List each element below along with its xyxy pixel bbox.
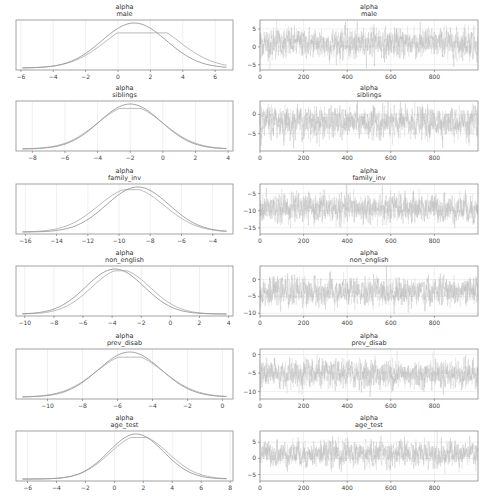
svg-text:−2: −2 [81,73,90,80]
svg-text:−2: −2 [137,319,146,326]
svg-text:5: 5 [252,25,256,32]
trace-chart: −10−500200400600800 [240,266,486,336]
svg-text:−8: −8 [146,237,155,244]
svg-text:0: 0 [252,351,256,358]
plot-title: alphafamily_inv [16,168,233,182]
plot-title: alphamale [260,4,478,18]
svg-text:2: 2 [148,73,152,80]
svg-text:4: 4 [170,484,174,491]
svg-text:−10: −10 [113,237,126,244]
svg-text:0: 0 [116,73,120,80]
svg-text:0: 0 [258,154,262,161]
svg-text:6: 6 [213,73,217,80]
svg-text:−10: −10 [18,319,31,326]
plot-title: alphafamily_inv [260,168,478,182]
density-chart: −8−6−4−2024 [0,101,243,171]
svg-text:−12: −12 [81,237,94,244]
svg-text:0: 0 [258,237,262,244]
trace-chart: −10−500200400600800 [240,349,486,419]
svg-text:200: 200 [298,73,310,80]
svg-text:0: 0 [252,110,256,117]
plot-title: alphasiblings [16,85,233,99]
svg-text:800: 800 [429,154,441,161]
svg-text:−5: −5 [247,292,256,299]
svg-text:800: 800 [429,237,441,244]
svg-text:0: 0 [112,484,116,491]
svg-text:−6: −6 [16,73,25,80]
svg-text:2: 2 [141,484,145,491]
plot-title: alphaage_test [260,415,478,429]
svg-text:600: 600 [385,73,397,80]
svg-text:−15: −15 [243,224,256,231]
svg-text:−5: −5 [247,471,256,478]
svg-text:−5: −5 [247,369,256,376]
svg-text:800: 800 [429,484,441,491]
svg-text:−4: −4 [93,154,102,161]
svg-text:−5: −5 [247,190,256,197]
density-chart: −10−8−6−4−2024 [0,266,243,336]
svg-text:200: 200 [298,319,310,326]
svg-text:−8: −8 [28,154,37,161]
svg-text:0: 0 [252,43,256,50]
svg-text:0: 0 [258,73,262,80]
density-chart: −16−14−12−10−8−6−4 [0,184,243,254]
svg-text:−4: −4 [52,484,61,491]
svg-text:5: 5 [252,438,256,445]
svg-text:0: 0 [258,484,262,491]
svg-text:−10: −10 [243,309,256,316]
svg-text:200: 200 [298,154,310,161]
svg-text:−10: −10 [243,388,256,395]
svg-text:4: 4 [226,154,230,161]
plot-title: alphanon_english [16,250,233,264]
svg-text:600: 600 [385,237,397,244]
svg-text:−6: −6 [61,154,70,161]
svg-text:4: 4 [181,73,185,80]
svg-text:4: 4 [227,319,231,326]
svg-text:2: 2 [198,319,202,326]
svg-text:400: 400 [341,319,353,326]
plot-title: alphasiblings [260,85,478,99]
svg-text:400: 400 [341,402,353,409]
svg-text:600: 600 [385,154,397,161]
svg-text:−10: −10 [243,207,256,214]
svg-text:−10: −10 [41,402,54,409]
svg-text:−4: −4 [108,319,117,326]
svg-text:0: 0 [252,454,256,461]
svg-text:0: 0 [168,319,172,326]
svg-text:600: 600 [385,484,397,491]
svg-text:−6: −6 [177,237,186,244]
svg-text:−6: −6 [113,402,122,409]
svg-text:0: 0 [161,154,165,161]
svg-text:600: 600 [385,402,397,409]
svg-text:800: 800 [429,73,441,80]
svg-text:400: 400 [341,484,353,491]
svg-text:−16: −16 [19,237,32,244]
svg-text:−6: −6 [23,484,32,491]
svg-text:0: 0 [258,319,262,326]
plot-title: alphaprev_disab [260,333,478,347]
svg-text:200: 200 [298,237,310,244]
svg-text:−8: −8 [49,319,58,326]
svg-text:6: 6 [199,484,203,491]
plot-title: alphaprev_disab [16,333,233,347]
svg-text:−2: −2 [81,484,90,491]
svg-text:400: 400 [341,73,353,80]
svg-text:400: 400 [341,154,353,161]
svg-text:800: 800 [429,319,441,326]
density-chart: −6−4−202468 [0,431,243,501]
plot-title: alphanon_english [260,250,478,264]
svg-text:−8: −8 [78,402,87,409]
density-chart: −6−4−20246 [0,20,243,90]
density-chart: −10−8−6−4−20 [0,349,243,419]
plot-title: alphaage_test [16,415,233,429]
svg-text:200: 200 [298,402,310,409]
svg-text:−2: −2 [126,154,135,161]
svg-text:400: 400 [341,237,353,244]
svg-text:2: 2 [194,154,198,161]
plot-title: alphamale [16,4,233,18]
trace-chart: −500200400600800 [240,101,486,171]
svg-text:0: 0 [221,402,225,409]
trace-chart: −5050200400600800 [240,20,486,90]
svg-text:−2: −2 [183,402,192,409]
svg-text:−4: −4 [49,73,58,80]
